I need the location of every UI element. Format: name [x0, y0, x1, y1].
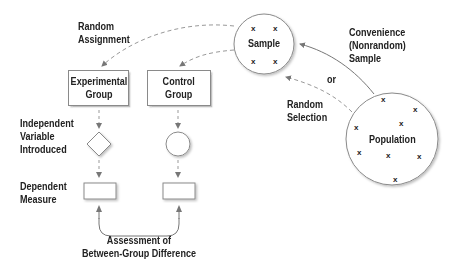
or-label: or: [327, 73, 336, 86]
treatment-diamond: [87, 132, 111, 156]
experimental-group-box: Experimental Group: [68, 70, 129, 106]
sample-label: Sample: [248, 37, 280, 50]
random-assignment-arrow-control: [180, 50, 234, 66]
assessment-label: Assessment of Between-Group Difference: [70, 234, 208, 260]
control-group-label: Control Group: [163, 75, 195, 101]
ctrl-dependent-measure: [163, 183, 195, 199]
population-marker: x: [381, 96, 385, 104]
independent-variable-label: Independent Variable Introduced: [20, 117, 74, 156]
population-marker: x: [386, 152, 390, 160]
exp-dependent-measure: [84, 183, 116, 199]
control-group-box: Control Group: [147, 70, 211, 106]
convenience-sample-label: Convenience (Nonrandom) Sample: [349, 26, 406, 65]
sample-marker: x: [251, 25, 255, 33]
random-selection-label: Random Selection: [287, 98, 327, 124]
population-marker: x: [417, 153, 421, 161]
experimental-group-label: Experimental Group: [70, 75, 127, 101]
population-marker: x: [393, 176, 397, 184]
population-marker: x: [413, 106, 417, 114]
sample-marker: x: [251, 58, 255, 66]
population-marker: x: [354, 124, 358, 132]
population-label: Population: [369, 133, 416, 146]
population-marker: x: [399, 120, 403, 128]
random-assignment-label: Random Assignment: [78, 20, 130, 46]
dependent-measure-label: Dependent Measure: [20, 180, 67, 206]
sample-marker: x: [273, 58, 277, 66]
sample-marker: x: [273, 25, 277, 33]
control-circle: [166, 132, 190, 156]
population-marker: x: [357, 149, 361, 157]
